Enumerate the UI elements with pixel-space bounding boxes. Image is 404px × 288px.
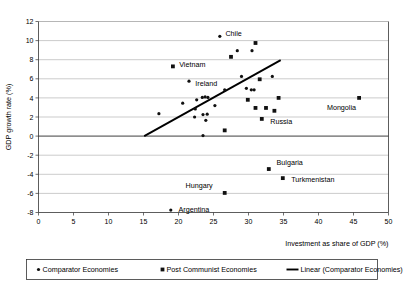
data-point-comparator — [201, 134, 204, 137]
y-axis-title: GDP growth rate (%) — [4, 84, 13, 151]
data-point-post-communist — [281, 176, 285, 180]
y-tick-label: 12 — [26, 18, 34, 25]
data-point-comparator — [206, 96, 209, 99]
point-label: Vietnam — [179, 60, 205, 69]
data-point-post-communist — [277, 96, 281, 100]
data-point-comparator — [193, 115, 196, 118]
data-point-comparator — [236, 49, 239, 52]
legend-marker-circle — [37, 268, 40, 271]
data-point-post-communist — [273, 109, 277, 113]
data-point-post-communist — [260, 117, 264, 121]
data-point-comparator — [195, 98, 198, 101]
y-tick-label: 10 — [26, 37, 34, 44]
data-point-comparator — [201, 96, 204, 99]
y-tick-label: -4 — [27, 171, 33, 178]
data-point-post-communist — [254, 41, 258, 45]
point-label: Ireland — [195, 79, 217, 88]
legend-marker-square — [161, 268, 165, 272]
y-tick-label: -6 — [27, 190, 33, 197]
data-point-comparator — [245, 87, 248, 90]
data-point-post-communist — [267, 167, 271, 171]
x-tick-label: 30 — [245, 218, 253, 225]
y-tick-label: 4 — [30, 95, 34, 102]
y-tick-label: 6 — [30, 75, 34, 82]
y-tick-label: 0 — [30, 133, 34, 140]
x-tick-label: 50 — [385, 218, 393, 225]
data-point-comparator — [206, 113, 209, 116]
data-point-post-communist — [258, 77, 262, 81]
chart-canvas: -8-6-4-202468101205101520253035404550 Ch… — [0, 0, 404, 288]
point-label: Mongolia — [327, 103, 356, 112]
y-tick-label: -2 — [27, 152, 33, 159]
data-point-comparator — [253, 88, 256, 91]
x-tick-label: 10 — [105, 218, 113, 225]
data-point-comparator — [250, 88, 253, 91]
data-point-comparator — [218, 35, 221, 38]
y-tick-label: 2 — [30, 114, 34, 121]
x-tick-label: 25 — [210, 218, 218, 225]
point-label: Argentina — [179, 205, 210, 214]
data-point-comparator — [250, 49, 253, 52]
data-point-comparator — [201, 113, 204, 116]
data-point-post-communist — [246, 98, 250, 102]
data-point-comparator — [194, 107, 197, 110]
legend-item-label: Linear (Comparator Economies) — [301, 265, 403, 274]
data-point-post-communist — [223, 128, 227, 132]
x-tick-label: 20 — [175, 218, 183, 225]
legend-item-label: Comparator Economies — [43, 265, 119, 274]
legend-item-label: Post Communist Economies — [167, 265, 258, 274]
x-tick-label: 35 — [280, 218, 288, 225]
data-point-post-communist — [357, 96, 361, 100]
x-tick-label: 15 — [140, 218, 148, 225]
data-point-comparator — [213, 104, 216, 107]
data-point-post-communist — [264, 106, 268, 110]
data-point-comparator — [181, 102, 184, 105]
point-label: Bulgaria — [277, 158, 303, 167]
scatter-chart: -8-6-4-202468101205101520253035404550 Ch… — [0, 0, 404, 288]
point-label: Turkmenistan — [291, 175, 334, 184]
data-point-post-communist — [229, 55, 233, 59]
data-point-post-communist — [171, 64, 175, 68]
data-point-comparator — [169, 209, 172, 212]
data-point-post-communist — [254, 106, 258, 110]
y-tick-label: 8 — [30, 56, 34, 63]
data-point-comparator — [204, 119, 207, 122]
data-point-comparator — [223, 88, 226, 91]
data-point-comparator — [271, 75, 274, 78]
y-tick-label: -8 — [27, 209, 33, 216]
point-label: Russia — [270, 117, 292, 126]
data-point-post-communist — [223, 191, 227, 195]
x-axis-title: Investment as share of GDP (%) — [285, 239, 388, 248]
x-tick-label: 5 — [72, 218, 76, 225]
point-label: Hungary — [186, 181, 214, 190]
x-tick-label: 45 — [350, 218, 358, 225]
point-label: Chile — [225, 29, 241, 38]
x-tick-label: 40 — [315, 218, 323, 225]
data-point-comparator — [240, 75, 243, 78]
data-point-comparator — [157, 112, 160, 115]
x-tick-label: 0 — [37, 218, 41, 225]
data-point-comparator — [204, 95, 207, 98]
data-point-comparator — [187, 80, 190, 83]
